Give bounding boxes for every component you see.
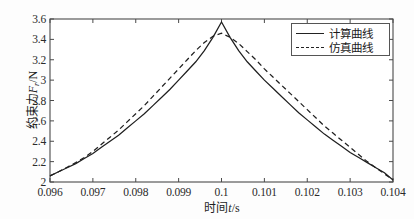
- y-tick-label: 2.4: [18, 135, 46, 147]
- chart-figure: 0.0960.0970.0980.0990.10.1010.1020.1030.…: [0, 0, 414, 219]
- legend-dashed-line-icon: [295, 42, 325, 52]
- x-axis-title: 时间t/s: [204, 198, 239, 216]
- y-tick-label: 2: [18, 176, 46, 188]
- x-tick-label: 0.098: [123, 186, 148, 198]
- y-axis-title-var: F: [26, 86, 40, 93]
- x-axis-title-unit: /s: [232, 201, 240, 215]
- y-axis-title-subscript: r: [32, 83, 41, 86]
- y-tick-label: 3.6: [18, 13, 46, 25]
- x-tick-label: 0.104: [381, 186, 406, 198]
- legend-item-calculated[interactable]: 计算曲线: [295, 26, 386, 40]
- x-tick-label: 0.099: [166, 186, 191, 198]
- legend-label-simulated: 仿真曲线: [325, 39, 373, 55]
- legend-solid-line-icon: [295, 28, 325, 38]
- x-tick-label: 0.102: [295, 186, 320, 198]
- y-axis-title-main: 约束力: [26, 93, 40, 129]
- x-axis-title-main: 时间: [204, 201, 228, 215]
- y-axis-title-unit: /N: [26, 71, 40, 83]
- x-tick-label: 0.101: [252, 186, 277, 198]
- y-tick-label: 3.2: [18, 54, 46, 66]
- x-tick-label: 0.1: [215, 186, 229, 198]
- y-axis-title: 约束力Fr/N: [23, 71, 41, 129]
- x-tick-label: 0.103: [338, 186, 363, 198]
- legend-item-simulated[interactable]: 仿真曲线: [295, 40, 386, 54]
- x-tick-label: 0.097: [80, 186, 105, 198]
- y-tick-label: 3.4: [18, 33, 46, 45]
- chart-legend[interactable]: 计算曲线 仿真曲线: [291, 23, 390, 56]
- y-tick-label: 2.2: [18, 156, 46, 168]
